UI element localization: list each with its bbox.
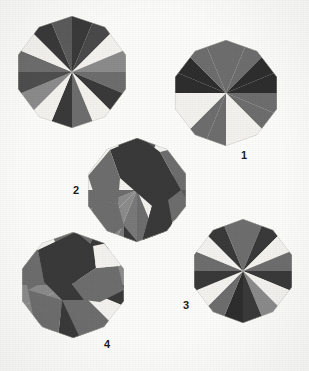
pinwheel-figure-4 [8, 220, 138, 350]
pinwheel-figure-3 [179, 207, 307, 335]
figures-canvas [0, 0, 309, 371]
pinwheel-figure-1 [160, 27, 292, 159]
pinwheel-top-left [2, 2, 142, 142]
pinwheel-figure-2 [73, 126, 201, 254]
illustration-root: 1 2 3 4 [0, 0, 309, 371]
figure-label-2: 2 [73, 185, 79, 196]
figure-label-4: 4 [104, 339, 110, 350]
figure-label-1: 1 [241, 150, 247, 161]
figure-label-3: 3 [183, 300, 189, 311]
swirl-arm [93, 242, 118, 268]
